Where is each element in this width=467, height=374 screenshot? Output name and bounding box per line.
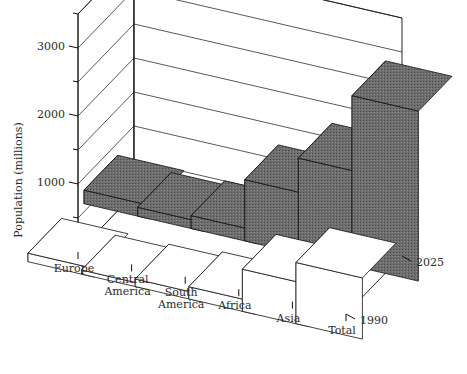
category-label: Europe (54, 262, 95, 275)
category-label: Africa (217, 299, 252, 312)
series-depth-label: 2025 (416, 256, 444, 269)
population-3d-bar-chart: 0100020003000 EuropeCentralAmericaSouthA… (0, 0, 467, 374)
y-tick-label: 3000 (37, 40, 65, 53)
category-label: Total (328, 324, 356, 337)
category-label: Asia (276, 312, 301, 325)
y-axis-title: Population (millions) (12, 122, 25, 237)
y-tick-label: 1000 (37, 176, 65, 189)
category-label: CentralAmerica (103, 273, 151, 298)
y-tick-label: 2000 (37, 108, 65, 121)
series-depth-label: 1990 (360, 314, 388, 327)
chart-container: 0100020003000 EuropeCentralAmericaSouthA… (0, 0, 467, 374)
